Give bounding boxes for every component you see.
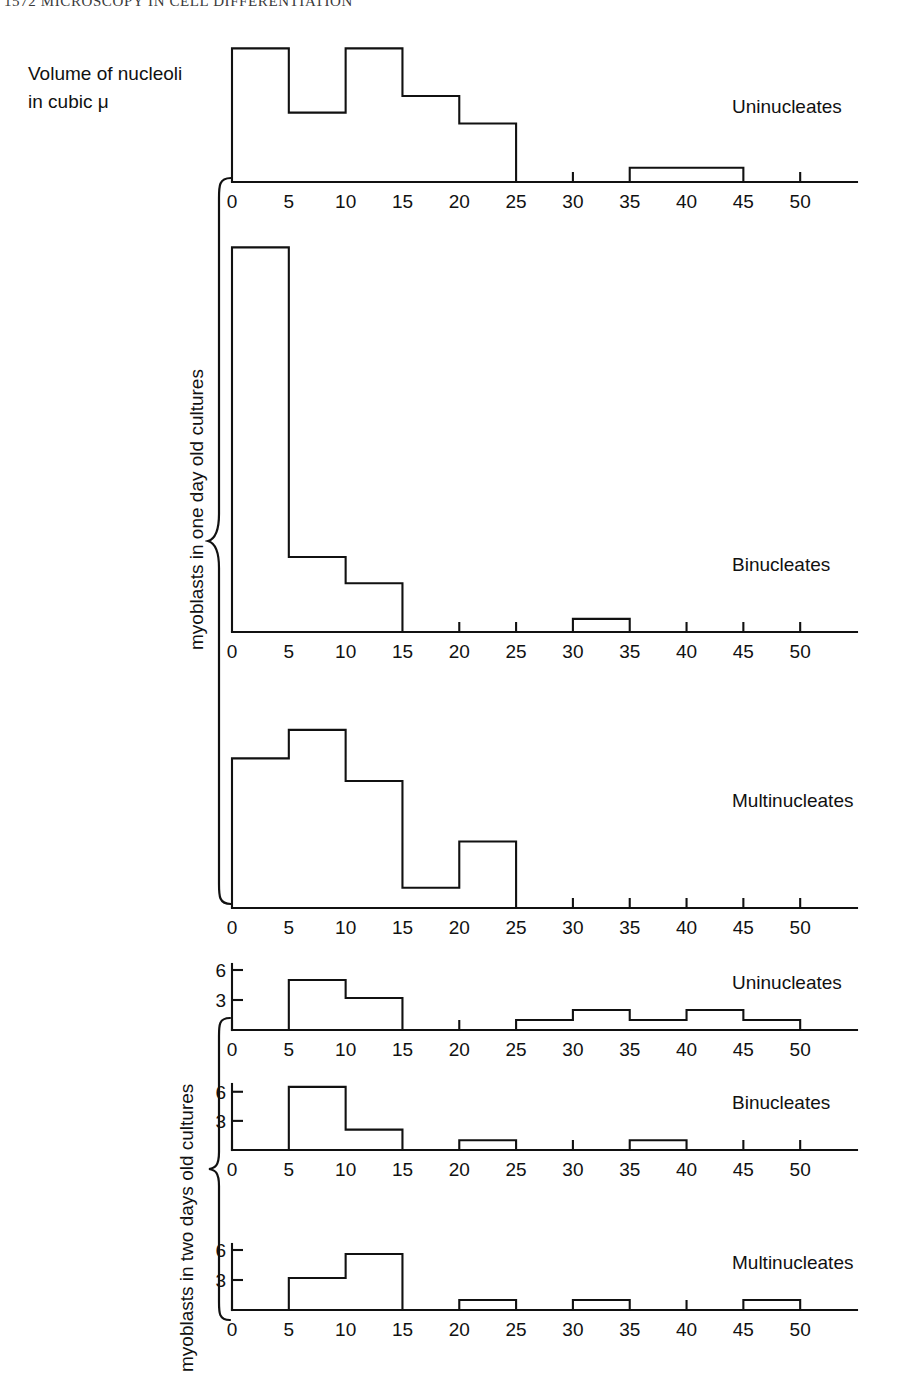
histogram-bar-group	[743, 1300, 800, 1310]
x-axis-tick-label: 15	[392, 191, 413, 212]
x-axis-tick-label: 5	[284, 1159, 295, 1180]
x-axis-tick-label: 10	[335, 1159, 356, 1180]
x-axis-tick-label: 50	[790, 1159, 811, 1180]
x-axis-tick-label: 5	[284, 191, 295, 212]
histogram-bar-group	[232, 247, 402, 632]
histogram-bar-group	[289, 1087, 403, 1150]
series-label-binucleates-two-days: Binucleates	[732, 1092, 830, 1114]
y-axis-tick-label: 6	[215, 960, 226, 981]
histogram-uninucleates-one-day: 05101520253035404550Uninucleates	[232, 34, 897, 216]
x-axis-tick-label: 30	[562, 917, 583, 938]
histogram-plot-area-binucleates-one-day: 05101520253035404550	[232, 232, 897, 666]
histogram-bar-group	[573, 619, 630, 632]
x-axis-tick-label: 35	[619, 1039, 640, 1060]
x-axis-tick-label: 25	[506, 1319, 527, 1340]
histogram-uninucleates-two-days: 3605101520253035404550Uninucleates	[232, 958, 897, 1064]
histogram-bar-group	[232, 730, 516, 908]
x-axis-tick-label: 30	[562, 641, 583, 662]
x-axis-tick-label: 40	[676, 191, 697, 212]
x-axis-tick-label: 50	[790, 1039, 811, 1060]
x-axis-tick-label: 20	[449, 1039, 470, 1060]
histogram-plot-area-uninucleates-one-day: 05101520253035404550	[232, 34, 897, 216]
x-axis-tick-label: 10	[335, 641, 356, 662]
x-axis-tick-label: 0	[227, 1159, 238, 1180]
x-axis-tick-label: 50	[790, 917, 811, 938]
x-axis-tick-label: 45	[733, 1159, 754, 1180]
x-axis-tick-label: 5	[284, 1319, 295, 1340]
histogram-bar-group	[516, 1010, 800, 1030]
histogram-binucleates-one-day: 05101520253035404550Binucleates	[232, 232, 897, 666]
x-axis-tick-label: 0	[227, 1039, 238, 1060]
y-axis-tick-label: 3	[215, 990, 226, 1011]
series-label-uninucleates-two-days: Uninucleates	[732, 972, 842, 994]
x-axis-tick-label: 40	[676, 1319, 697, 1340]
x-axis-tick-label: 5	[284, 1039, 295, 1060]
y-axis-tick-label: 3	[215, 1270, 226, 1291]
running-head: 1572 MICROSCOPY IN CELL DIFFERENTIATION	[0, 0, 902, 7]
x-axis-tick-label: 20	[449, 191, 470, 212]
x-axis-tick-label: 45	[733, 191, 754, 212]
x-axis-tick-label: 20	[449, 641, 470, 662]
x-axis-tick-label: 30	[562, 1159, 583, 1180]
x-axis-tick-label: 20	[449, 917, 470, 938]
x-axis-tick-label: 5	[284, 641, 295, 662]
x-axis-tick-label: 5	[284, 917, 295, 938]
histogram-binucleates-two-days: 3605101520253035404550Binucleates	[232, 1078, 897, 1184]
x-axis-tick-label: 20	[449, 1319, 470, 1340]
x-axis-tick-label: 35	[619, 641, 640, 662]
x-axis-tick-label: 0	[227, 917, 238, 938]
x-axis-tick-label: 10	[335, 1319, 356, 1340]
histogram-plot-area-multinucleates-one-day: 05101520253035404550	[232, 712, 897, 942]
x-axis-tick-label: 30	[562, 1319, 583, 1340]
x-axis-tick-label: 25	[506, 917, 527, 938]
x-axis-tick-label: 30	[562, 1039, 583, 1060]
x-axis-tick-label: 0	[227, 191, 238, 212]
series-label-multinucleates-one-day: Multinucleates	[732, 790, 853, 812]
group-label-one-day: myoblasts in one day old cultures	[186, 369, 208, 650]
y-axis-tick-label: 6	[215, 1082, 226, 1103]
y-axis-tick-label: 6	[215, 1240, 226, 1261]
histogram-bar-group	[459, 1140, 516, 1150]
x-axis-tick-label: 40	[676, 1159, 697, 1180]
x-axis-tick-label: 50	[790, 1319, 811, 1340]
histogram-bar-group	[630, 168, 744, 182]
x-axis-tick-label: 45	[733, 641, 754, 662]
x-axis-tick-label: 25	[506, 191, 527, 212]
series-label-multinucleates-two-days: Multinucleates	[732, 1252, 853, 1274]
x-axis-tick-label: 35	[619, 917, 640, 938]
x-axis-tick-label: 25	[506, 641, 527, 662]
histogram-bar-group	[289, 1254, 403, 1310]
group-label-two-days: myoblasts in two days old cultures	[176, 1084, 198, 1372]
axis-caption-volume: Volume of nucleoli in cubic μ	[28, 60, 258, 116]
x-axis-tick-label: 35	[619, 1319, 640, 1340]
histogram-bar-group	[459, 1300, 516, 1310]
x-axis-tick-label: 35	[619, 1159, 640, 1180]
histogram-bar-group	[573, 1300, 630, 1310]
x-axis-tick-label: 15	[392, 917, 413, 938]
figure-page: 1572 MICROSCOPY IN CELL DIFFERENTIATION …	[0, 0, 902, 1396]
x-axis-tick-label: 10	[335, 1039, 356, 1060]
histogram-bar-group	[232, 48, 516, 182]
x-axis-tick-label: 0	[227, 1319, 238, 1340]
x-axis-tick-label: 50	[790, 191, 811, 212]
x-axis-tick-label: 25	[506, 1159, 527, 1180]
x-axis-tick-label: 45	[733, 1039, 754, 1060]
x-axis-tick-label: 45	[733, 1319, 754, 1340]
x-axis-tick-label: 50	[790, 641, 811, 662]
x-axis-tick-label: 40	[676, 1039, 697, 1060]
axis-caption-line-1: Volume of nucleoli	[28, 60, 258, 88]
histogram-bar-group	[289, 980, 403, 1030]
series-label-binucleates-one-day: Binucleates	[732, 554, 830, 576]
x-axis-tick-label: 0	[227, 641, 238, 662]
axis-caption-line-2: in cubic μ	[28, 88, 258, 116]
y-axis-tick-label: 3	[215, 1111, 226, 1132]
x-axis-tick-label: 40	[676, 917, 697, 938]
x-axis-tick-label: 25	[506, 1039, 527, 1060]
x-axis-tick-label: 15	[392, 1159, 413, 1180]
x-axis-tick-label: 30	[562, 191, 583, 212]
x-axis-tick-label: 35	[619, 191, 640, 212]
x-axis-tick-label: 15	[392, 1039, 413, 1060]
x-axis-tick-label: 10	[335, 191, 356, 212]
brace-one-day-group	[205, 176, 235, 906]
histogram-bar-group	[630, 1140, 687, 1150]
